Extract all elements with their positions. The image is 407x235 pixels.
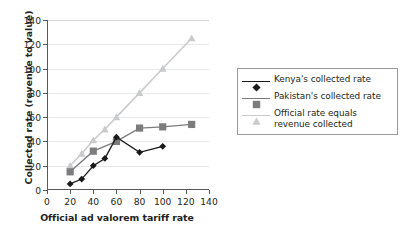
legend-key bbox=[242, 75, 270, 87]
square-marker-icon bbox=[136, 124, 143, 131]
y-axis-tick-label: 60 bbox=[7, 112, 41, 123]
y-axis-tick-label: 120 bbox=[7, 39, 41, 50]
x-axis-tick-label: 20 bbox=[58, 196, 82, 207]
y-axis-tick-label: 140 bbox=[7, 15, 41, 26]
x-axis-tick bbox=[186, 190, 187, 194]
square-marker-icon bbox=[67, 168, 74, 175]
x-axis-tick-label: 100 bbox=[151, 196, 175, 207]
y-axis-tick-label: 0 bbox=[7, 185, 41, 196]
legend-label: Kenya's collected rate bbox=[274, 74, 371, 85]
x-axis-tick-label: 80 bbox=[128, 196, 152, 207]
triangle-marker-icon bbox=[252, 111, 261, 130]
y-axis-tick-label: 40 bbox=[7, 136, 41, 147]
y-axis-tick-label: 80 bbox=[7, 88, 41, 99]
series-line bbox=[70, 124, 192, 171]
diamond-marker-icon bbox=[136, 149, 143, 156]
x-axis-tick bbox=[47, 190, 48, 194]
x-axis-tick bbox=[70, 190, 71, 194]
diamond-marker-icon bbox=[159, 143, 166, 150]
x-axis-tick-label: 0 bbox=[35, 196, 59, 207]
x-axis-title: Official ad valorem tariff rate bbox=[22, 212, 212, 223]
legend-key bbox=[242, 92, 270, 104]
x-axis-tick-label: 120 bbox=[174, 196, 198, 207]
legend-label: Pakistan's collected rate bbox=[274, 91, 381, 102]
plot-area bbox=[47, 20, 209, 190]
chart-figure: Collected rate (revenue to value) Offici… bbox=[0, 0, 407, 235]
chart-legend: Kenya's collected ratePakistan's collect… bbox=[237, 68, 398, 135]
x-axis-tick-label: 140 bbox=[197, 196, 221, 207]
x-axis-tick bbox=[140, 190, 141, 194]
x-axis-tick bbox=[163, 190, 164, 194]
y-axis-tick-label: 100 bbox=[7, 64, 41, 75]
y-axis-tick-label: 20 bbox=[7, 161, 41, 172]
x-axis-tick-label: 40 bbox=[81, 196, 105, 207]
data-series-layer bbox=[47, 20, 209, 190]
legend-row: Kenya's collected rate bbox=[242, 74, 393, 87]
series-3 bbox=[66, 34, 195, 168]
diamond-marker-icon bbox=[101, 155, 108, 162]
legend-row: Pakistan's collected rate bbox=[242, 91, 393, 104]
x-axis-tick bbox=[116, 190, 117, 194]
square-marker-icon bbox=[90, 148, 97, 155]
legend-row: Official rate equals revenue collected bbox=[242, 108, 393, 129]
square-marker-icon bbox=[188, 121, 195, 128]
x-axis-tick bbox=[93, 190, 94, 194]
x-axis-tick bbox=[209, 190, 210, 194]
x-axis-tick-label: 60 bbox=[104, 196, 128, 207]
triangle-marker-icon bbox=[188, 34, 196, 41]
square-marker-icon bbox=[159, 123, 166, 130]
legend-key bbox=[242, 109, 270, 121]
diamond-marker-icon bbox=[67, 181, 74, 188]
legend-label: Official rate equals revenue collected bbox=[274, 108, 393, 129]
